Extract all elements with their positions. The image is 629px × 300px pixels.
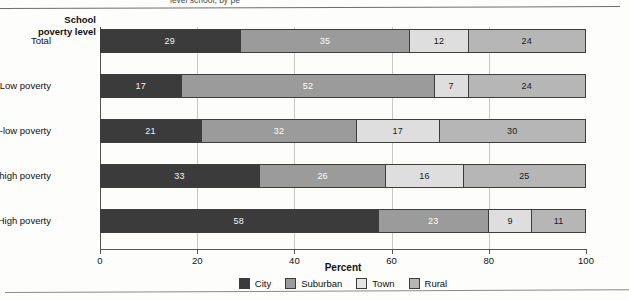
bar-segment-suburban[interactable]: 26 xyxy=(260,165,386,187)
x-tick xyxy=(586,250,587,254)
stacked-bar[interactable]: 1752724 xyxy=(100,74,586,98)
bar-row[interactable]: Mid-high poverty33261625 xyxy=(100,164,586,188)
bar-segment-rural[interactable]: 24 xyxy=(469,30,585,52)
category-label: Mid-low poverty xyxy=(0,119,51,143)
x-tick xyxy=(197,250,198,254)
stacked-bar[interactable]: 5823911 xyxy=(100,209,586,233)
bar-segment-rural[interactable]: 30 xyxy=(440,120,586,142)
chart-page: level school, by pe Schoolpoverty level … xyxy=(0,0,629,300)
legend-item-rural[interactable]: Rural xyxy=(409,278,448,289)
chart-legend: CitySuburbanTownRural xyxy=(100,278,586,289)
category-label: Low poverty xyxy=(0,74,51,98)
x-axis-line xyxy=(100,249,587,250)
legend-swatch-icon xyxy=(285,278,296,289)
plot-area: Total29351224Low poverty1752724Mid-low p… xyxy=(100,27,586,249)
bar-segment-rural[interactable]: 24 xyxy=(469,75,585,97)
x-tick xyxy=(100,250,101,254)
stacked-bar[interactable]: 33261625 xyxy=(100,164,586,188)
bar-segment-town[interactable]: 12 xyxy=(410,30,468,52)
stacked-bar[interactable]: 29351224 xyxy=(100,29,586,53)
legend-item-suburban[interactable]: Suburban xyxy=(285,278,342,289)
legend-swatch-icon xyxy=(239,278,250,289)
bar-segment-city[interactable]: 21 xyxy=(100,120,202,142)
bar-segment-city[interactable]: 29 xyxy=(100,30,241,52)
bar-segment-suburban[interactable]: 32 xyxy=(202,120,357,142)
bar-segment-town[interactable]: 9 xyxy=(489,210,532,232)
x-tick xyxy=(294,250,295,254)
x-axis-title: Percent xyxy=(100,262,586,273)
legend-label: City xyxy=(255,278,271,289)
bar-row[interactable]: Low poverty1752724 xyxy=(100,74,586,98)
bar-segment-town[interactable]: 7 xyxy=(435,75,469,97)
bar-segment-town[interactable]: 16 xyxy=(386,165,464,187)
bar-row[interactable]: High poverty5823911 xyxy=(100,209,586,233)
legend-label: Rural xyxy=(425,278,448,289)
stacked-bar[interactable]: 21321730 xyxy=(100,119,586,143)
y-axis-title-line: School xyxy=(0,14,96,26)
clipped-header-text: level school, by pe xyxy=(170,0,240,5)
bar-row[interactable]: Total29351224 xyxy=(100,29,586,53)
x-tick xyxy=(392,250,393,254)
bar-segment-suburban[interactable]: 35 xyxy=(241,30,411,52)
bar-segment-city[interactable]: 17 xyxy=(100,75,182,97)
bar-segment-suburban[interactable]: 23 xyxy=(379,210,489,232)
category-label: Total xyxy=(0,29,51,53)
legend-item-city[interactable]: City xyxy=(239,278,271,289)
footer-rule xyxy=(5,289,629,293)
bar-segment-rural[interactable]: 11 xyxy=(532,210,585,232)
legend-swatch-icon xyxy=(409,278,420,289)
bar-segment-town[interactable]: 17 xyxy=(357,120,439,142)
bar-segment-suburban[interactable]: 52 xyxy=(182,75,434,97)
bar-row[interactable]: Mid-low poverty21321730 xyxy=(100,119,586,143)
category-label: Mid-high poverty xyxy=(0,164,51,188)
category-label: High poverty xyxy=(0,209,51,233)
legend-swatch-icon xyxy=(356,278,367,289)
bar-segment-city[interactable]: 33 xyxy=(100,165,260,187)
bar-segment-rural[interactable]: 25 xyxy=(464,165,585,187)
x-tick xyxy=(489,250,490,254)
bar-segment-city[interactable]: 58 xyxy=(100,210,379,232)
legend-item-town[interactable]: Town xyxy=(356,278,394,289)
legend-label: Town xyxy=(372,278,394,289)
legend-label: Suburban xyxy=(301,278,342,289)
